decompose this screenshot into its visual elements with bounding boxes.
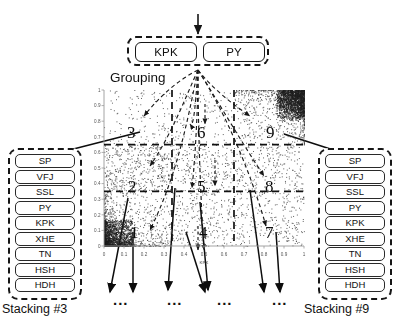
svg-text:0.1: 0.1 <box>94 228 101 233</box>
stacking-3-item-kpk[interactable]: KPK <box>15 216 75 230</box>
stacking-9-item-ssl[interactable]: SSL <box>325 185 385 199</box>
stacking-3-item-xhe[interactable]: XHE <box>15 232 75 246</box>
grouping-box: KPK PY <box>127 36 269 66</box>
stacking-3-item-ssl[interactable]: SSL <box>15 185 75 199</box>
svg-text:KPK: KPK <box>200 260 209 265</box>
stacking-3-item-hdh[interactable]: HDH <box>15 278 75 292</box>
svg-text:0.5: 0.5 <box>94 166 101 171</box>
cell-number-3: 3 <box>127 124 136 141</box>
svg-text:0.8: 0.8 <box>261 252 268 257</box>
cell-number-2: 2 <box>128 178 137 195</box>
stacking-9-item-hdh[interactable]: HDH <box>325 278 385 292</box>
cell-number-1: 1 <box>130 224 139 241</box>
stacking-9-item-vfj[interactable]: VFJ <box>325 170 385 184</box>
feature-chip-kpk[interactable]: KPK <box>135 42 197 62</box>
stacking-panel-9-caption: Stacking #9 <box>304 302 396 316</box>
svg-text:0.9: 0.9 <box>94 103 101 108</box>
svg-text:0.7: 0.7 <box>94 135 101 140</box>
cell-number-8: 8 <box>265 178 274 195</box>
stacking-3-item-tn[interactable]: TN <box>15 247 75 261</box>
stacking-3-item-sp[interactable]: SP <box>15 154 75 168</box>
stacking-3-item-hsh[interactable]: HSH <box>15 263 75 277</box>
svg-text:1: 1 <box>98 88 101 93</box>
stacking-9-item-hsh[interactable]: HSH <box>325 263 385 277</box>
grouping-label: Grouping <box>110 70 166 85</box>
svg-text:0.3: 0.3 <box>161 252 168 257</box>
svg-text:0.1: 0.1 <box>121 252 128 257</box>
ellipsis-2: ... <box>167 292 183 307</box>
svg-text:0.4: 0.4 <box>94 181 101 186</box>
stacking-9-item-py[interactable]: PY <box>325 201 385 215</box>
stacking-9-item-sp[interactable]: SP <box>325 154 385 168</box>
svg-text:0.2: 0.2 <box>94 213 101 218</box>
svg-text:1: 1 <box>303 252 306 257</box>
svg-text:0.4: 0.4 <box>181 252 188 257</box>
svg-text:0.8: 0.8 <box>94 119 101 124</box>
cell-number-7: 7 <box>265 224 274 241</box>
cell-number-4: 4 <box>199 224 208 241</box>
svg-text:0: 0 <box>98 244 101 249</box>
ellipsis-3: ... <box>217 292 233 307</box>
ellipsis-1: ... <box>113 292 129 307</box>
stacking-panel-9: SPVFJSSLPYKPKXHETNHSHHDH <box>318 148 392 300</box>
stacking-9-item-kpk[interactable]: KPK <box>325 216 385 230</box>
svg-text:0.6: 0.6 <box>221 252 228 257</box>
cell-number-9: 9 <box>266 124 275 141</box>
svg-text:0.7: 0.7 <box>241 252 248 257</box>
svg-text:0.2: 0.2 <box>141 252 148 257</box>
stacking-3-item-vfj[interactable]: VFJ <box>15 170 75 184</box>
diagram-root: 00.10.20.30.40.50.60.70.80.91KPK00.10.20… <box>0 0 396 332</box>
svg-text:0: 0 <box>103 252 106 257</box>
stacking-9-item-tn[interactable]: TN <box>325 247 385 261</box>
cell-number-6: 6 <box>197 124 206 141</box>
feature-chip-py[interactable]: PY <box>203 42 265 62</box>
stacking-panel-3-caption: Stacking #3 <box>2 302 112 316</box>
svg-text:0.9: 0.9 <box>281 252 288 257</box>
cell-number-5: 5 <box>197 178 206 195</box>
svg-text:0.5: 0.5 <box>201 252 208 257</box>
svg-text:0.3: 0.3 <box>94 197 101 202</box>
svg-text:0.6: 0.6 <box>94 150 101 155</box>
stacking-9-item-xhe[interactable]: XHE <box>325 232 385 246</box>
stacking-panel-3: SPVFJSSLPYKPKXHETNHSHHDH <box>8 148 82 300</box>
ellipsis-4: ... <box>272 292 288 307</box>
stacking-3-item-py[interactable]: PY <box>15 201 75 215</box>
